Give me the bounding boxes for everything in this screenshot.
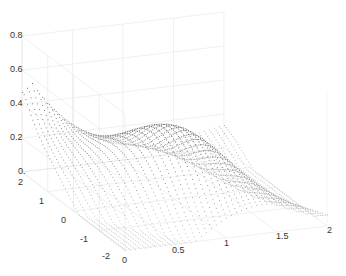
x-tick-0: 0 [122,256,127,265]
x-tick-2: 2 [327,226,332,235]
surface-points [22,83,328,251]
y-tick-1: 1 [39,197,44,206]
z-tick-0.6: 0.6 [10,65,23,74]
grid-lines [22,12,327,250]
x-tick-1.5: 1.5 [276,232,289,241]
y-tick-neg1: -1 [80,235,88,244]
y-tick-0: 0 [61,216,66,225]
z-tick-0.8: 0.8 [10,31,23,40]
y-tick-2: 2 [18,178,23,187]
z-tick-0.2: 0.2 [10,133,23,142]
y-tick-neg2: -2 [102,252,110,261]
plot-area [0,0,346,276]
x-tick-0.5: 0.5 [172,246,185,255]
x-tick-1: 1 [224,239,229,248]
z-tick-0.4: 0.4 [10,99,23,108]
z-tick-0: 0. [18,167,26,176]
